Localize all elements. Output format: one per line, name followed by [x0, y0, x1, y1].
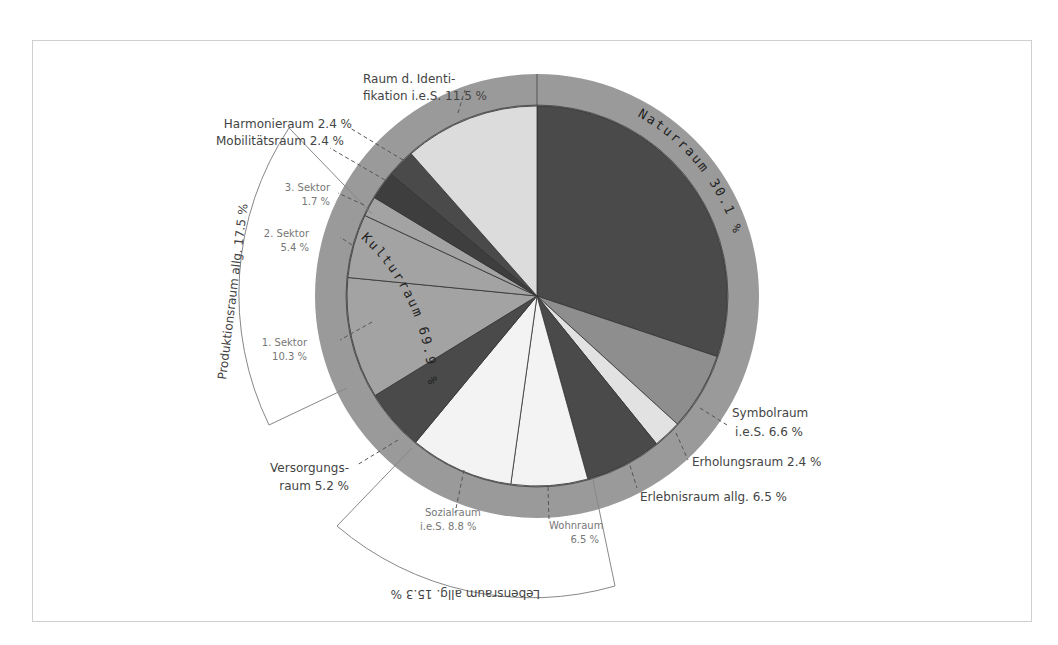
sektor2-label-2: 5.4 % — [280, 242, 309, 253]
sektor1-label-1: 1. Sektor — [262, 337, 308, 348]
sektor1-label-2: 10.3 % — [272, 351, 307, 362]
mobilitaetsraum-label: Mobilitätsraum 2.4 % — [216, 134, 344, 148]
produktionsraum-label: Produktionsraum allg. 17.5 % — [215, 203, 250, 380]
sektor3-label-1: 3. Sektor — [285, 182, 331, 193]
versorgungsraum-label-1: Versorgungs- — [270, 461, 349, 475]
sozialraum-label-1: Sozialraum — [425, 507, 481, 518]
pie-chart: Naturraum 30.1 % Kulturraum 69.9 % Produ… — [0, 0, 1058, 645]
harmonieraum-label: Harmonieraum 2.4 % — [224, 117, 352, 131]
erholungsraum-label: Erholungsraum 2.4 % — [692, 455, 821, 469]
wohnraum-label-1: Wohnraum — [549, 520, 603, 531]
symbolraum-label-2: i.e.S. 6.6 % — [735, 425, 803, 439]
symbolraum-label-1: Symbolraum — [732, 406, 808, 420]
sozialraum-label-2: i.e.S. 8.8 % — [420, 521, 477, 532]
sektor3-label-2: 1.7 % — [301, 196, 330, 207]
versorgungsraum-label-2: raum 5.2 % — [279, 479, 349, 493]
sektor2-label-1: 2. Sektor — [264, 228, 310, 239]
lebensraum-label: Lebensraum allg. 15.3 % — [391, 587, 540, 601]
erlebnisraum-label: Erlebnisraum allg. 6.5 % — [640, 490, 787, 504]
identifikation-label-1: Raum d. Identi- — [363, 72, 455, 86]
wohnraum-label-2: 6.5 % — [570, 534, 599, 545]
identifikation-label-2: fikation i.e.S. 11.5 % — [363, 89, 487, 103]
